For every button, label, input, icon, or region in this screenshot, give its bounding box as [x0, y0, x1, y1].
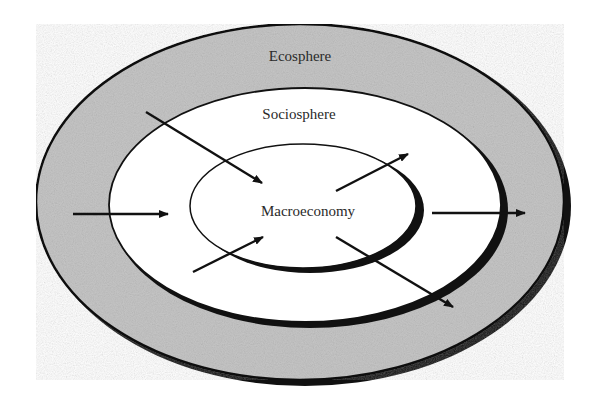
macroeconomy-label: Macroeconomy: [261, 203, 355, 220]
ecosphere-label: Ecosphere: [269, 48, 331, 65]
sociosphere-label: Sociosphere: [262, 106, 335, 123]
